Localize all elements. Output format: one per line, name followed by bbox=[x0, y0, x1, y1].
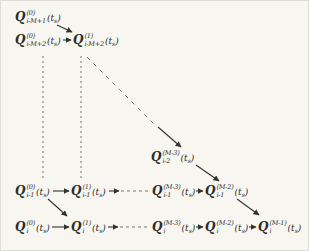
nodes-layer: Q(0)i-M+1(ts)Q(0)i-M+2(ts)Q(1)i-M+2(ts)Q… bbox=[1, 1, 309, 251]
order-superscript: (M-2) bbox=[216, 220, 233, 227]
q-symbol: Q bbox=[15, 34, 25, 46]
order-superscript: (M-3) bbox=[162, 150, 179, 157]
node-q-i-minus-M-plus-2-ord-0: Q(0)i-M+2(ts) bbox=[15, 32, 61, 48]
scripts: (1)i-1 bbox=[82, 184, 91, 199]
argument: (ts) bbox=[47, 14, 61, 25]
scripts: (M-2)i-1 bbox=[216, 184, 233, 199]
node-q-i-ord-1: Q(1)i(ts) bbox=[71, 219, 106, 235]
q-symbol: Q bbox=[15, 185, 25, 197]
order-superscript: (1) bbox=[82, 220, 91, 227]
scripts: (M-1)i bbox=[269, 220, 286, 235]
order-superscript: (M-3) bbox=[163, 220, 180, 227]
time-subscript: i-1 bbox=[163, 192, 180, 199]
scripts: (M-3)i-2 bbox=[162, 150, 179, 165]
time-subscript: i-M+1 bbox=[26, 18, 46, 25]
time-subscript: i bbox=[163, 228, 180, 235]
recursion-lattice-diagram: Q(0)i-M+1(ts)Q(0)i-M+2(ts)Q(1)i-M+2(ts)Q… bbox=[0, 0, 309, 251]
q-symbol: Q bbox=[71, 185, 81, 197]
order-superscript: (0) bbox=[26, 10, 46, 17]
q-symbol: Q bbox=[258, 221, 268, 233]
node-q-i-minus-M-plus-2-ord-1: Q(1)i-M+2(ts) bbox=[73, 32, 119, 48]
node-q-i-ord-M-minus-2: Q(M-2)i(ts) bbox=[205, 219, 248, 235]
q-symbol: Q bbox=[152, 185, 162, 197]
q-symbol: Q bbox=[71, 221, 81, 233]
order-superscript: (1) bbox=[82, 184, 91, 191]
order-superscript: (0) bbox=[26, 33, 46, 40]
argument: (ts) bbox=[92, 188, 106, 199]
node-q-i-minus-1-ord-1: Q(1)i-1(ts) bbox=[71, 183, 106, 199]
argument: (ts) bbox=[36, 224, 50, 235]
scripts: (0)i bbox=[26, 220, 35, 235]
scripts: (0)i-M+1 bbox=[26, 10, 46, 25]
time-subscript: i bbox=[269, 228, 286, 235]
q-symbol: Q bbox=[15, 221, 25, 233]
argument: (ts) bbox=[235, 224, 249, 235]
q-symbol: Q bbox=[73, 34, 83, 46]
node-q-i-ord-M-minus-1: Q(M-1)i(ts) bbox=[258, 219, 301, 235]
scripts: (M-3)i bbox=[163, 220, 180, 235]
argument: (ts) bbox=[105, 37, 119, 48]
node-q-i-ord-0: Q(0)i(ts) bbox=[15, 219, 50, 235]
time-subscript: i-1 bbox=[26, 192, 35, 199]
q-symbol: Q bbox=[205, 221, 215, 233]
order-superscript: (1) bbox=[84, 33, 104, 40]
time-subscript: i bbox=[26, 228, 35, 235]
scripts: (1)i bbox=[82, 220, 91, 235]
scripts: (1)i-M+2 bbox=[84, 33, 104, 48]
q-symbol: Q bbox=[151, 151, 161, 163]
node-q-i-minus-2-ord-M-minus-3: Q(M-3)i-2(ts) bbox=[151, 149, 194, 165]
time-subscript: i-2 bbox=[162, 158, 179, 165]
time-subscript: i-M+2 bbox=[26, 41, 46, 48]
node-q-i-minus-1-ord-M-minus-3: Q(M-3)i-1(ts) bbox=[152, 183, 195, 199]
argument: (ts) bbox=[182, 224, 196, 235]
argument: (ts) bbox=[36, 188, 50, 199]
time-subscript: i bbox=[216, 228, 233, 235]
scripts: (M-2)i bbox=[216, 220, 233, 235]
argument: (ts) bbox=[92, 224, 106, 235]
argument: (ts) bbox=[235, 188, 249, 199]
node-q-i-minus-M-plus-1-ord-0: Q(0)i-M+1(ts) bbox=[15, 9, 61, 25]
q-symbol: Q bbox=[15, 11, 25, 23]
scripts: (M-3)i-1 bbox=[163, 184, 180, 199]
time-subscript: i-M+2 bbox=[84, 41, 104, 48]
order-superscript: (M-2) bbox=[216, 184, 233, 191]
q-symbol: Q bbox=[152, 221, 162, 233]
node-q-i-minus-1-ord-M-minus-2: Q(M-2)i-1(ts) bbox=[205, 183, 248, 199]
order-superscript: (M-1) bbox=[269, 220, 286, 227]
node-q-i-ord-M-minus-3: Q(M-3)i(ts) bbox=[152, 219, 195, 235]
time-subscript: i bbox=[82, 228, 91, 235]
time-subscript: i-1 bbox=[216, 192, 233, 199]
argument: (ts) bbox=[288, 224, 302, 235]
order-superscript: (0) bbox=[26, 184, 35, 191]
argument: (ts) bbox=[47, 37, 61, 48]
q-symbol: Q bbox=[205, 185, 215, 197]
scripts: (0)i-M+2 bbox=[26, 33, 46, 48]
argument: (ts) bbox=[182, 188, 196, 199]
argument: (ts) bbox=[181, 154, 195, 165]
order-superscript: (0) bbox=[26, 220, 35, 227]
order-superscript: (M-3) bbox=[163, 184, 180, 191]
time-subscript: i-1 bbox=[82, 192, 91, 199]
node-q-i-minus-1-ord-0: Q(0)i-1(ts) bbox=[15, 183, 50, 199]
scripts: (0)i-1 bbox=[26, 184, 35, 199]
